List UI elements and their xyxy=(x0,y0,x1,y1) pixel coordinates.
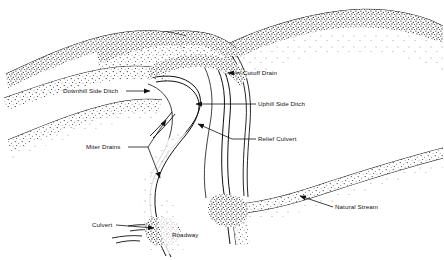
label-miter-drains: Miter Drains xyxy=(86,144,121,150)
label-cutoff-drain: Cutoff Drain xyxy=(243,70,277,76)
label-uphill-side-ditch: Uphill Side Ditch xyxy=(258,101,305,107)
label-relief-culvert: Relief Culvert xyxy=(258,136,297,142)
uphill-side-ditch-line xyxy=(204,66,212,198)
stream-far-bank xyxy=(236,160,443,224)
terrain-group xyxy=(4,9,443,257)
label-culvert: Culvert xyxy=(92,222,112,228)
label-natural-stream: Natural Stream xyxy=(335,204,378,210)
label-roadway: Roadway xyxy=(172,232,199,238)
terrain-illustration xyxy=(0,0,444,260)
drainage-diagram: Cutoff Drain Downhill Side Ditch Uphill … xyxy=(0,0,444,260)
leader-miter-drains xyxy=(128,120,166,147)
label-downhill-side-ditch: Downhill Side Ditch xyxy=(63,88,118,94)
leader-relief-culvert xyxy=(198,124,256,139)
